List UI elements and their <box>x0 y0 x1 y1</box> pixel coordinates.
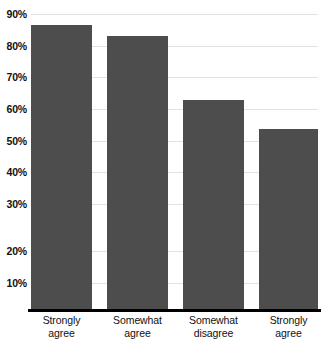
y-tick-label: 70% <box>0 72 27 82</box>
x-axis-label: Strongly agree <box>26 314 97 340</box>
y-tick-label: 40% <box>0 167 27 177</box>
x-axis-label-line1: Strongly <box>253 314 324 327</box>
x-axis-label-line2: agree <box>102 327 173 340</box>
x-axis-category-labels: Strongly agree Somewhat agree Somewhat d… <box>31 314 318 348</box>
x-axis-label-line1: Somewhat <box>178 314 249 327</box>
y-tick-label: 80% <box>0 41 27 51</box>
y-tick-label: 30% <box>0 199 27 209</box>
y-tick-label: 50% <box>0 136 27 146</box>
x-axis-label-line2: agree <box>26 327 97 340</box>
bar <box>107 36 168 310</box>
x-axis-label-line2: disagree <box>178 327 249 340</box>
x-axis-label-line2: agree <box>253 327 324 340</box>
bar <box>31 25 92 310</box>
gridline <box>31 14 318 15</box>
bar <box>259 129 318 310</box>
x-axis-label-line1: Strongly <box>26 314 97 327</box>
cropped-caption-strip <box>0 344 328 348</box>
x-axis-label: Strongly agree <box>253 314 324 340</box>
y-tick-label: 10% <box>0 278 27 288</box>
x-axis-line <box>28 309 321 312</box>
x-axis-label: Somewhat disagree <box>178 314 249 340</box>
bar <box>183 100 244 310</box>
x-axis-label: Somewhat agree <box>102 314 173 340</box>
x-axis-label-line1: Somewhat <box>102 314 173 327</box>
bar-chart: 90% 80% 70% 60% 50% 40% 30% 20% 10% Stro… <box>0 0 328 348</box>
y-tick-label: 90% <box>0 9 27 19</box>
y-tick-label: 20% <box>0 246 27 256</box>
y-tick-label: 60% <box>0 104 27 114</box>
plot-area <box>31 0 318 310</box>
